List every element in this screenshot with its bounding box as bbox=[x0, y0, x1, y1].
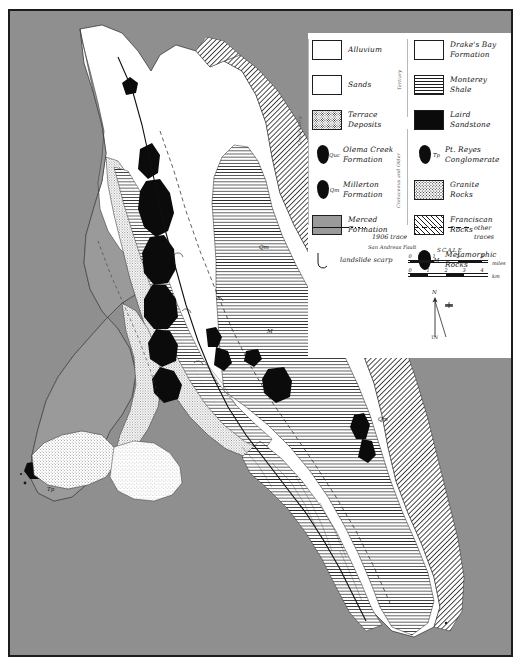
scale-miles-unit: miles bbox=[492, 260, 505, 266]
pt-reyes-label: Pt. Reyes Conglomerate bbox=[445, 145, 500, 163]
legend-item-millerton[interactable]: Qm Millerton Formation bbox=[312, 173, 408, 206]
sands-swatch bbox=[312, 75, 342, 95]
drakes-bay-label: Drake's Bay Formation bbox=[450, 40, 496, 58]
legend-item-monterey-shale[interactable]: Monterey Shale bbox=[414, 68, 510, 101]
north-arrow-n-label: N bbox=[432, 289, 437, 295]
miles-tick-1: 1 bbox=[432, 253, 435, 259]
map-code-m-center: M bbox=[267, 328, 273, 334]
millerton-blob-icon bbox=[317, 180, 329, 199]
legend-vertical-label-quaternary: Quaternary bbox=[297, 81, 303, 181]
olema-creek-blob-icon bbox=[317, 145, 329, 164]
pt-reyes-code: Tp bbox=[431, 152, 442, 158]
screenshot-root: Qm M Qm Tp Quaternary Tertiary Cretaceou… bbox=[0, 0, 523, 667]
sands-label: Sands bbox=[348, 80, 371, 89]
trace-1906-label: 1906 trace bbox=[372, 233, 407, 241]
granite-rocks-label: Granite Rocks bbox=[450, 180, 479, 198]
alluvium-label: Alluvium bbox=[348, 45, 382, 54]
miles-seg-2 bbox=[458, 261, 482, 262]
scale-miles-bar: miles bbox=[408, 260, 488, 263]
landslide-scarp-icon bbox=[312, 250, 338, 270]
scale-km-bar: km bbox=[408, 273, 488, 276]
legend-item-granite-rocks[interactable]: Granite Rocks bbox=[414, 173, 510, 206]
map-code-qm-south: Qm bbox=[378, 416, 388, 422]
fault-key-other[interactable]: other traces bbox=[414, 224, 512, 241]
scale-miles-ticks: 0 1 2 3 bbox=[408, 253, 488, 260]
monterey-shale-label: Monterey Shale bbox=[450, 75, 487, 93]
legend-item-sands[interactable]: Sands bbox=[312, 68, 408, 101]
granite-rocks-swatch bbox=[414, 180, 444, 200]
north-arrow-tn-label: TN bbox=[431, 335, 438, 340]
terrace-deposits-swatch bbox=[312, 110, 342, 130]
km-seg-1 bbox=[410, 274, 428, 275]
fault-key-1906[interactable]: 1906 trace San Andreas Fault bbox=[312, 224, 416, 250]
legend-item-olema-creek[interactable]: Quc Olema Creek Formation bbox=[312, 138, 408, 171]
olema-creek-code: Quc bbox=[329, 152, 340, 158]
north-arrow: N TN bbox=[422, 291, 462, 345]
legend-item-pt-reyes-conglomerate[interactable]: Tp Pt. Reyes Conglomerate bbox=[414, 138, 510, 171]
scale-km-unit: km bbox=[492, 273, 500, 279]
alluvium-swatch bbox=[312, 40, 342, 60]
map-legend: Quaternary Tertiary Cretaceous and Older… bbox=[308, 33, 513, 358]
laird-sandstone-swatch bbox=[414, 110, 444, 130]
scale-bar: SCALE 0 1 2 3 miles 0 1 2 3 4 bbox=[406, 247, 506, 281]
laird-sandstone-label: Laird Sandstone bbox=[450, 110, 490, 128]
legend-rule-left bbox=[308, 39, 309, 225]
miles-tick-3: 3 bbox=[480, 253, 483, 259]
other-traces-line-icon bbox=[414, 225, 470, 231]
other-traces-label: other traces bbox=[474, 224, 512, 241]
terrace-deposits-label: Terrace Deposits bbox=[348, 110, 381, 128]
trace-1906-line-icon bbox=[312, 225, 368, 231]
miles-tick-2: 2 bbox=[456, 253, 459, 259]
map-code-qm-north: Qm bbox=[259, 244, 269, 250]
pt-reyes-blob-icon bbox=[419, 145, 431, 164]
north-arrow-graphic bbox=[422, 291, 462, 345]
map-code-tp-headland: Tp bbox=[47, 486, 54, 492]
map-frame: Qm M Qm Tp Quaternary Tertiary Cretaceou… bbox=[8, 9, 513, 657]
monterey-shale-swatch bbox=[414, 75, 444, 95]
miles-tick-0: 0 bbox=[408, 253, 411, 259]
legend-item-alluvium[interactable]: Alluvium bbox=[312, 33, 408, 66]
legend-item-terrace-deposits[interactable]: Terrace Deposits bbox=[312, 103, 408, 136]
miles-seg-1 bbox=[410, 261, 434, 262]
olema-creek-label: Olema Creek Formation bbox=[343, 145, 393, 163]
km-seg-2 bbox=[446, 274, 464, 275]
millerton-code: Qm bbox=[329, 187, 340, 193]
landslide-scarp-label: landslide scarp bbox=[340, 256, 393, 264]
legend-item-drakes-bay[interactable]: Drake's Bay Formation bbox=[414, 33, 510, 66]
drakes-bay-swatch bbox=[414, 40, 444, 60]
millerton-label: Millerton Formation bbox=[343, 180, 383, 198]
legend-item-laird-sandstone[interactable]: Laird Sandstone bbox=[414, 103, 510, 136]
